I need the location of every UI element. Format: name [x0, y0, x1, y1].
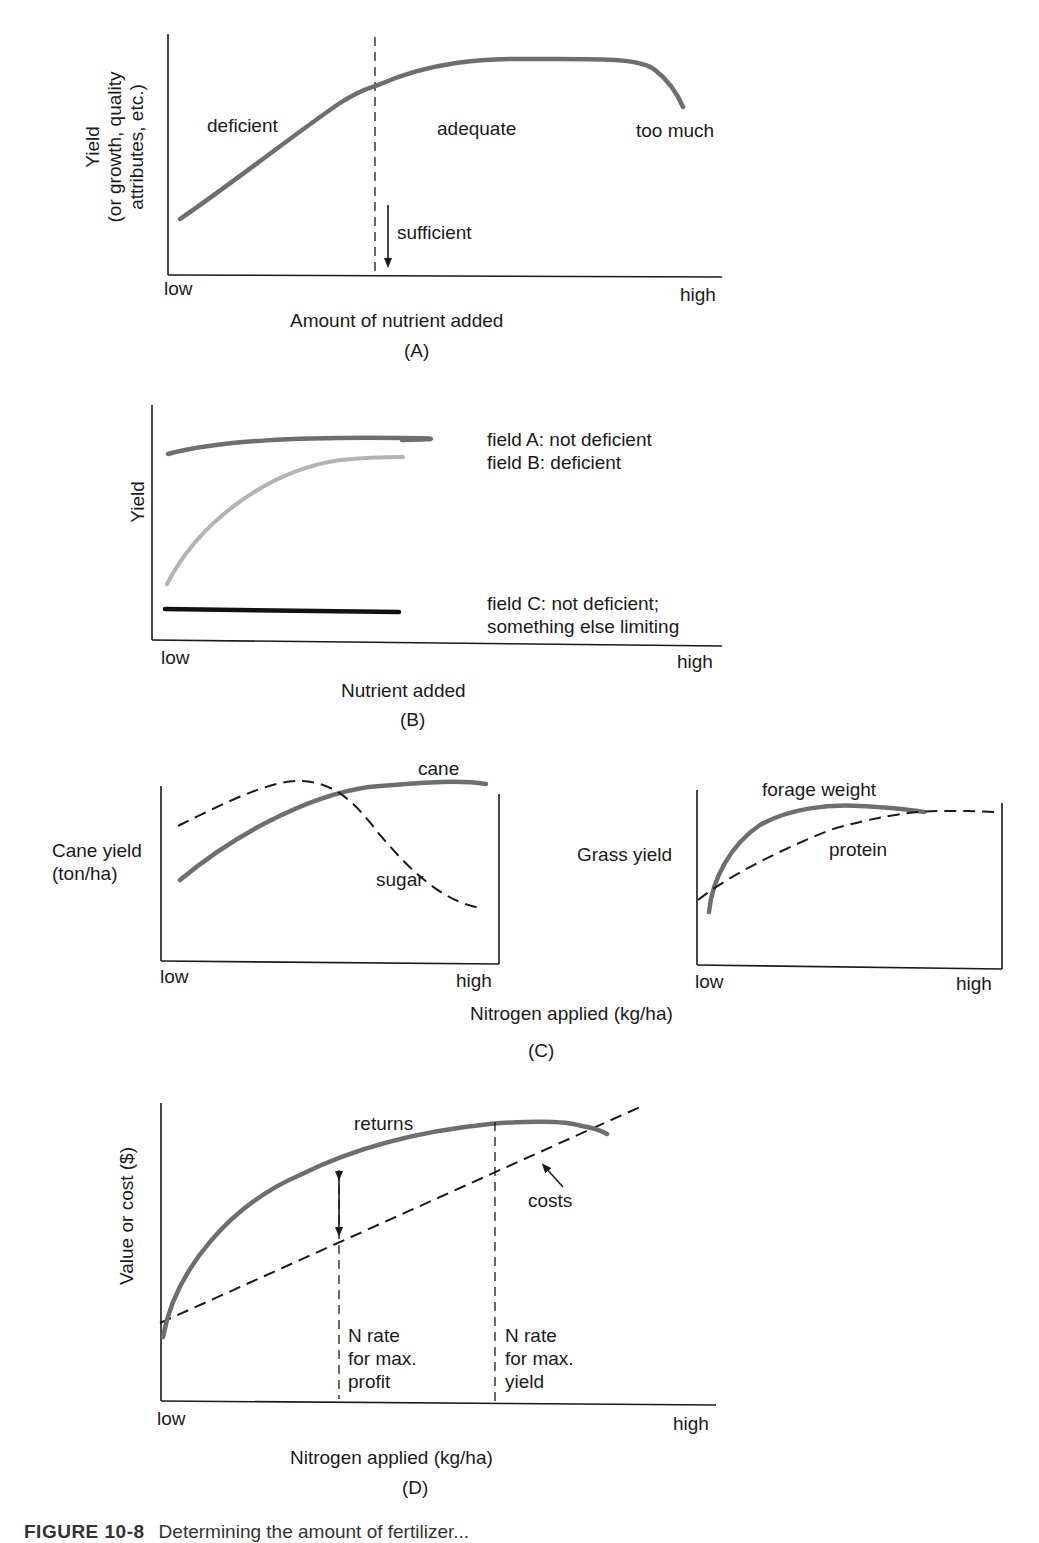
- panel-c-left-ylabel-line2: (ton/ha): [52, 863, 117, 885]
- panel-a-label-sufficient: sufficient: [397, 222, 472, 244]
- panel-d-x-high: high: [673, 1413, 709, 1435]
- panel-a-ylabel-line3: attributes, etc.): [126, 47, 148, 247]
- panel-c-left-x-axis: [161, 961, 499, 964]
- panel-b-label-field-c-line1: field C: not deficient;: [487, 593, 659, 615]
- figure-canvas: [0, 0, 1039, 1543]
- panel-a-tag: (A): [404, 340, 429, 362]
- panel-a-y-axis-label: Yield (or growth, quality attributes, et…: [82, 47, 148, 247]
- figure-caption-label: FIGURE 10-8: [24, 1521, 145, 1542]
- panel-b-field-c-line: [165, 609, 399, 612]
- panel-c-x-axis-label: Nitrogen applied (kg/ha): [470, 1003, 673, 1025]
- panel-d-label-max-profit-line2: for max.: [348, 1348, 417, 1370]
- panel-c-right-x-low: low: [695, 971, 724, 993]
- panel-c-label-sugar: sugar: [376, 869, 424, 891]
- panel-b-x-axis-label: Nutrient added: [341, 680, 466, 702]
- panel-d-returns-curve: [163, 1122, 607, 1337]
- panel-c-tag: (C): [528, 1040, 554, 1062]
- panel-b-field-a-curve: [168, 438, 431, 454]
- panel-a-label-adequate: adequate: [437, 118, 516, 140]
- panel-a-x-axis: [168, 275, 722, 277]
- panel-a-x-high: high: [680, 284, 716, 306]
- panel-d-label-max-yield-line3: yield: [505, 1371, 544, 1393]
- panel-c-left-ylabel-line1: Cane yield: [52, 840, 142, 862]
- panel-c-right-chart: [697, 790, 1002, 969]
- panel-d-costs-pointer-arrow: [545, 1167, 563, 1187]
- panel-d-label-returns: returns: [354, 1113, 413, 1135]
- panel-c-right-x-axis: [697, 965, 1002, 969]
- panel-b-x-low: low: [161, 647, 190, 669]
- panel-d-label-max-profit-line1: N rate: [348, 1325, 400, 1347]
- panel-d-label-max-yield-line2: for max.: [505, 1348, 574, 1370]
- panel-c-label-cane: cane: [418, 758, 459, 780]
- panel-c-left-chart: [161, 781, 499, 964]
- panel-d-label-max-yield-line1: N rate: [505, 1325, 557, 1347]
- panel-b-label-field-a: field A: not deficient: [487, 429, 652, 451]
- panel-b-x-axis: [152, 640, 722, 646]
- panel-a-label-deficient: deficient: [207, 115, 278, 137]
- panel-d-chart: [160, 1103, 716, 1405]
- panel-b-x-high: high: [677, 651, 713, 673]
- panel-c-left-x-low: low: [160, 966, 189, 988]
- panel-a-ylabel-line2: (or growth, quality: [104, 47, 126, 247]
- panel-d-label-max-profit-line3: profit: [348, 1371, 390, 1393]
- panel-a-ylabel-line1: Yield: [82, 47, 104, 247]
- panel-b-field-b-curve: [167, 457, 403, 584]
- panel-c-right-ylabel: Grass yield: [577, 844, 672, 866]
- panel-b-label-field-b: field B: deficient: [487, 452, 621, 474]
- panel-b-y-axis-label: Yield: [127, 452, 149, 552]
- panel-d-x-low: low: [157, 1408, 186, 1430]
- panel-a-yield-curve: [180, 59, 683, 219]
- panel-a-label-too-much: too much: [636, 120, 714, 142]
- panel-d-x-axis-label: Nitrogen applied (kg/ha): [290, 1447, 493, 1469]
- panel-b-label-field-c-line2: something else limiting: [487, 616, 679, 638]
- panel-c-cane-curve: [180, 782, 486, 880]
- panel-a-x-axis-label: Amount of nutrient added: [290, 310, 503, 332]
- panel-c-right-x-high: high: [956, 973, 992, 995]
- panel-b-tag: (B): [400, 709, 425, 731]
- panel-c-sugar-curve: [178, 781, 480, 908]
- panel-d-label-costs: costs: [528, 1190, 572, 1212]
- panel-c-label-protein: protein: [829, 839, 887, 861]
- panel-a-x-low: low: [164, 278, 193, 300]
- panel-d-x-axis: [161, 1401, 716, 1405]
- figure-caption: FIGURE 10-8Determining the amount of fer…: [24, 1521, 469, 1543]
- panel-c-forage-curve: [709, 806, 924, 912]
- panel-d-y-axis-label: Value or cost ($): [116, 1096, 138, 1336]
- figure-caption-text: Determining the amount of fertilizer...: [159, 1521, 469, 1542]
- panel-d-tag: (D): [402, 1477, 428, 1499]
- panel-c-left-x-high: high: [456, 970, 492, 992]
- panel-c-label-forage-weight: forage weight: [762, 779, 876, 801]
